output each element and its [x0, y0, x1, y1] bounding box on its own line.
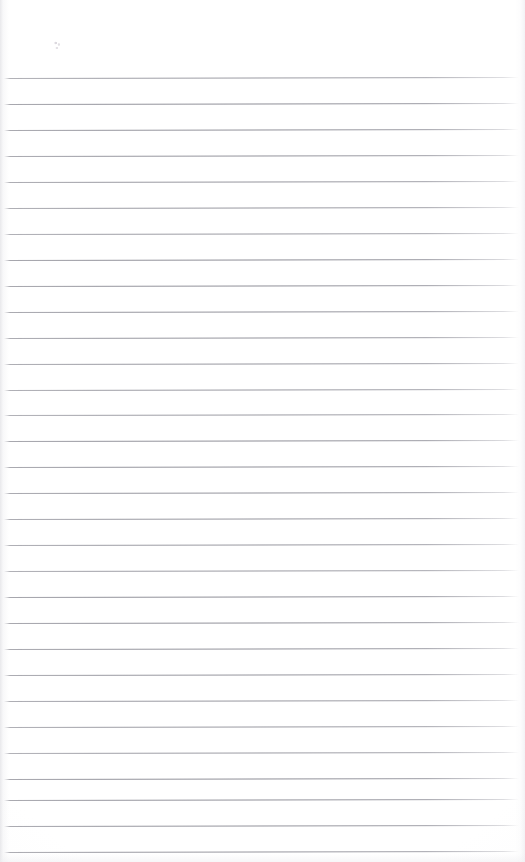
writing-row — [0, 827, 525, 852]
writing-row — [0, 416, 525, 441]
writing-row — [0, 235, 525, 260]
writing-row — [0, 468, 525, 493]
writing-row — [0, 853, 525, 862]
writing-row — [0, 131, 525, 156]
writing-row — [0, 183, 525, 208]
writing-row — [0, 313, 525, 338]
writing-row — [0, 598, 525, 623]
writing-row — [0, 261, 525, 286]
writing-row — [0, 650, 525, 675]
writing-row — [0, 546, 525, 571]
writing-row — [0, 754, 525, 779]
writing-row — [0, 676, 525, 701]
notebook-page — [0, 0, 525, 862]
writing-row — [0, 391, 525, 416]
writing-row — [0, 572, 525, 597]
writing-row — [0, 105, 525, 130]
writing-row — [0, 702, 525, 727]
writing-row — [0, 287, 525, 312]
writing-row — [0, 79, 525, 104]
writing-row — [0, 442, 525, 467]
writing-row — [0, 624, 525, 649]
writing-row — [0, 494, 525, 519]
writing-row — [0, 209, 525, 234]
writing-row — [0, 520, 525, 545]
writing-row — [0, 801, 525, 826]
writing-row — [0, 339, 525, 364]
writing-row — [0, 728, 525, 753]
ruled-lines-group — [0, 0, 525, 862]
writing-row — [0, 365, 525, 390]
writing-row — [0, 157, 525, 182]
